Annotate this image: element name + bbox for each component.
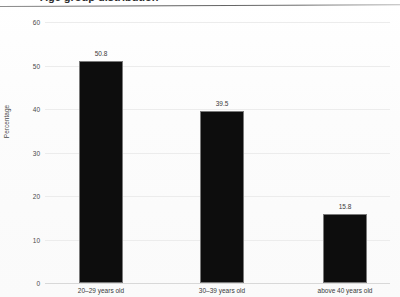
x-category-label: above 40 years old [295,287,395,295]
plot-area: 50.8 39.5 15.8 [45,22,390,283]
y-tick-label: 60 [14,19,40,26]
y-tick-label: 20 [14,193,40,200]
y-tick-label: 0 [14,280,40,287]
y-axis-tick-labels: 60 50 40 30 20 10 0 [8,22,40,283]
x-category-label: 30–39 years old [172,287,272,295]
gridline-baseline-0 [45,283,390,284]
y-tick-label: 40 [14,106,40,113]
bar-value-label: 15.8 [313,203,377,211]
bar-30-39-years-old [200,111,244,283]
bar-above-40-years-old [323,214,367,283]
y-tick-label: 50 [14,63,40,70]
bar-20-29-years-old [79,61,123,283]
x-category-label: 20–29 years old [51,287,151,295]
bar-value-label: 50.8 [69,50,133,58]
clipped-chart-title: Age group distribution [40,0,290,3]
top-divider-rule [0,4,400,7]
bar-value-label: 39.5 [190,100,254,108]
bar-chart-figure: Age group distribution Percentage 60 50 … [0,0,400,297]
gridline-60 [45,22,390,23]
y-tick-label: 30 [14,150,40,157]
chart-title-text: Age group distribution [40,0,290,3]
y-tick-label: 10 [14,237,40,244]
x-axis-category-labels: 20–29 years old 30–39 years old above 40… [45,287,390,297]
